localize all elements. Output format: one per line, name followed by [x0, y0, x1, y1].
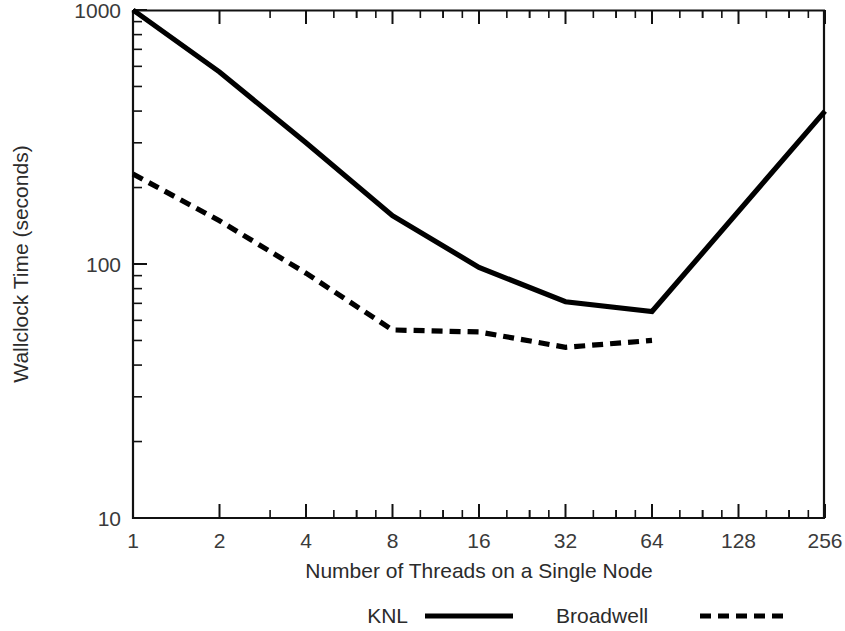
legend-label-broadwell: Broadwell	[556, 604, 648, 627]
y-axis-ticks	[133, 10, 147, 518]
series-line-broadwell	[133, 174, 652, 347]
x-tick-label: 32	[554, 529, 577, 552]
x-tick-label: 8	[387, 529, 399, 552]
y-tick-label: 100	[86, 253, 121, 276]
y-axis-tick-labels: 101001000	[74, 0, 121, 530]
x-tick-label: 64	[640, 529, 664, 552]
legend-label-knl: KNL	[367, 604, 408, 627]
y-tick-label: 10	[98, 507, 121, 530]
chart-figure: 101001000 1248163264128256 Wallclock Tim…	[0, 0, 845, 631]
x-axis-tick-labels: 1248163264128256	[127, 529, 842, 552]
x-tick-label: 256	[807, 529, 842, 552]
x-tick-label: 16	[467, 529, 490, 552]
x-tick-label: 2	[214, 529, 226, 552]
x-tick-label: 128	[721, 529, 756, 552]
x-tick-label: 1	[127, 529, 139, 552]
chart-canvas: 101001000 1248163264128256 Wallclock Tim…	[0, 0, 845, 631]
y-axis-title: Wallclock Time (seconds)	[9, 145, 32, 382]
y-tick-label: 1000	[74, 0, 121, 22]
series-group	[133, 10, 825, 347]
chart-legend: KNL Broadwell	[367, 604, 790, 627]
x-tick-label: 4	[300, 529, 312, 552]
x-axis-title: Number of Threads on a Single Node	[305, 559, 652, 582]
series-line-knl	[133, 10, 825, 312]
